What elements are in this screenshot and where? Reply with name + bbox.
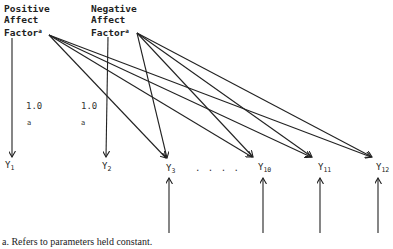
positive-label-footnote-mark: a [38,27,42,34]
var-sub: 11 [323,166,331,174]
variable-y2: Y2 [102,161,111,173]
variable-y10: Y10 [258,162,271,174]
y2-loading-value: 1.0 [81,101,97,111]
var-sub: 3 [171,167,175,175]
variable-y1: Y1 [5,160,14,172]
negative-label-line3: Factor [91,27,125,38]
positive-label-line1: Positive [4,3,50,14]
positive-label-line3: Factor [4,27,38,38]
y1-loading-value: 1.0 [26,101,42,111]
factor-model-diagram: Positive Affect Factora Negative Affect … [0,0,393,249]
negative-label-footnote-mark: a [125,27,129,34]
footnote: a. Refers to parameters held constant. [2,236,152,247]
var-sub: 12 [381,166,389,174]
path-arrows [0,0,393,249]
variable-y12: Y12 [376,162,389,174]
var-sub: 2 [107,165,111,173]
positive-affect-factor-label: Positive Affect Factora [4,3,50,38]
negative-label-line2: Affect [91,14,125,25]
y2-loading-note: a [81,119,85,127]
variable-y11: Y11 [318,162,331,174]
variable-y3: Y3 [166,163,175,175]
negative-affect-factor-label: Negative Affect Factora [91,3,137,38]
y1-loading-note: a [27,119,31,127]
var-sub: 1 [10,164,14,172]
negative-label-line1: Negative [91,3,137,14]
ellipsis: . . . . [195,163,240,173]
positive-label-line2: Affect [4,14,38,25]
var-sub: 10 [263,166,271,174]
